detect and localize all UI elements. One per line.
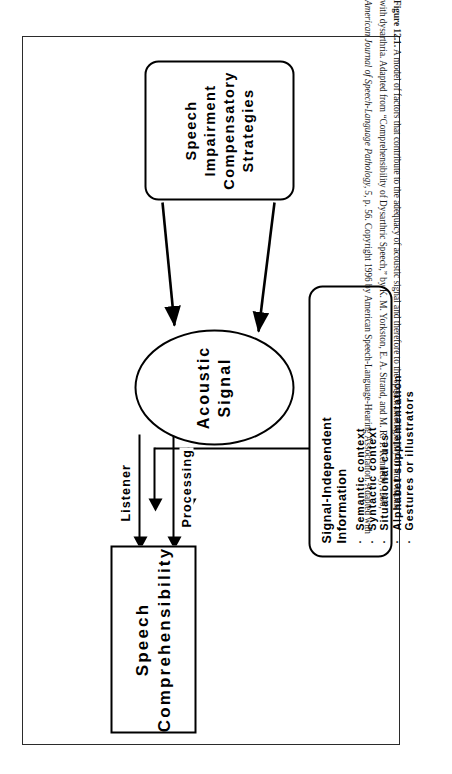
- figure-caption-journal-title: American Journal of Speech-Language Path…: [363, 0, 373, 198]
- node-speech-impairment-line1: Speech: [181, 100, 200, 160]
- node-acoustic-signal-line2: Signal: [214, 357, 235, 417]
- figure-caption: Figure 12.1. A model of factors that con…: [358, 0, 404, 774]
- node-signal-independent-title: Signal-Independent Information: [319, 299, 350, 543]
- node-signal-independent-title-line1: Signal-Independent: [319, 299, 334, 543]
- node-speech-impairment-line4: Strategies: [238, 88, 257, 172]
- figure-caption-line-3: American Journal of Speech-Language Path…: [361, 0, 375, 774]
- node-speech-comprehensibility-line2: Comprehensibility: [153, 546, 175, 732]
- node-speech-comprehensibility[interactable]: Speech Comprehensibility: [110, 545, 196, 733]
- edge-signal-independent-to-listener: [153, 447, 155, 501]
- edge-signal-independent-riser: [154, 447, 312, 449]
- figure-caption-line-2: with dysarthria. Adapted from “Comprehen…: [375, 0, 389, 774]
- figure-caption-line-1: Figure 12.1. A model of factors that con…: [390, 0, 404, 774]
- arrowhead-feed-top-icon: [148, 498, 162, 511]
- edge-label-processing: Processing: [179, 447, 193, 529]
- node-speech-impairment[interactable]: Speech Impairment Compensatory Strategie…: [144, 60, 294, 200]
- node-speech-comprehensibility-line1: Speech: [131, 602, 153, 676]
- edge-impairment-to-acoustic-lower: [258, 202, 274, 331]
- node-acoustic-signal[interactable]: Acoustic Signal: [134, 329, 294, 445]
- node-signal-independent-title-line2: Information: [334, 299, 349, 543]
- edge-impairment-to-acoustic-upper: [162, 202, 174, 325]
- node-speech-impairment-line3: Compensatory: [219, 71, 238, 189]
- diagram-stage: Listener Processing Speech Comprehensibi…: [22, 36, 400, 745]
- edge-processing-shaft: [172, 434, 174, 539]
- figure-caption-label: Figure 12.1.: [392, 0, 402, 47]
- edge-listener-shaft: [138, 434, 140, 539]
- node-speech-impairment-line2: Impairment: [200, 84, 219, 176]
- edge-label-listener: Listener: [118, 462, 132, 523]
- node-acoustic-signal-line1: Acoustic: [193, 345, 214, 429]
- figure-frame: Listener Processing Speech Comprehensibi…: [22, 36, 400, 745]
